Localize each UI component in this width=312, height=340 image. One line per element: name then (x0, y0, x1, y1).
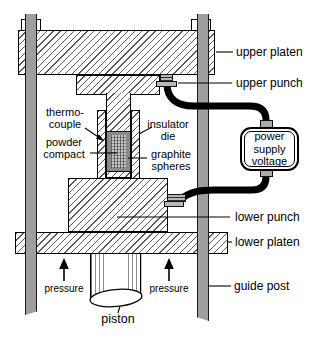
thermocouple-label: thermo- couple (42, 106, 88, 130)
lower-cable (181, 171, 266, 199)
upper-platen-label: upper platen (236, 45, 303, 59)
piston-bottom-ellipse (89, 287, 142, 308)
insulator-die-label: insulator die (143, 118, 193, 142)
lower-punch-label: lower punch (235, 210, 300, 224)
graphite-spheres-label: graphite spheres (145, 148, 197, 172)
lower-platen-label: lower platen (235, 235, 300, 249)
power-supply-label: power supply voltage (244, 131, 295, 167)
power-supply-box: power supply voltage (240, 127, 299, 171)
pressure-arrow-left-head (59, 258, 69, 269)
pressure-right-label: pressure (145, 283, 193, 295)
pressure-left-label: pressure (40, 283, 88, 295)
upper-punch-label: upper punch (236, 76, 303, 90)
guide-post-label: guide post (234, 279, 289, 293)
thermocouple-arrowhead (96, 134, 104, 141)
apparatus-diagram: power supply voltage upper platen upper … (0, 0, 312, 340)
powder-compact-label: powder compact (40, 136, 88, 160)
upper-electrode-flange (156, 81, 177, 87)
pressure-arrow-right-head (164, 258, 174, 269)
piston-label: piston (95, 313, 141, 325)
lower-electrode-flange (164, 201, 184, 207)
